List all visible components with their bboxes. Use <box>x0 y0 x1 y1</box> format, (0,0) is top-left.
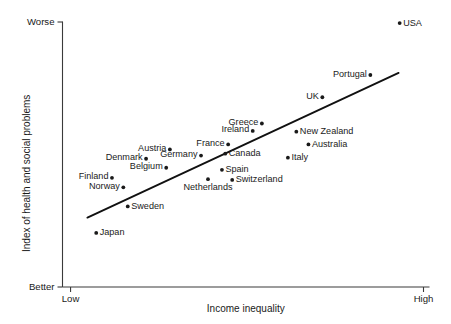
point-label: Norway <box>89 182 120 191</box>
data-point <box>144 157 148 161</box>
scatter-chart: USAPortugalUKGreeceIrelandNew ZealandFra… <box>0 0 451 324</box>
point-label: New Zealand <box>300 128 354 137</box>
data-point <box>164 166 168 170</box>
data-point <box>320 95 324 99</box>
point-label: Japan <box>100 229 125 238</box>
point-label: Ireland <box>221 126 249 135</box>
point-label: Australia <box>312 140 347 149</box>
point-label: USA <box>403 19 422 28</box>
point-label: Belgium <box>130 163 163 172</box>
data-point <box>223 152 227 156</box>
data-point <box>121 185 125 189</box>
data-point <box>206 177 210 181</box>
y-axis-top-tick-label: Worse <box>27 17 55 27</box>
data-point <box>94 231 98 235</box>
point-label: Netherlands <box>183 183 232 192</box>
point-label: Italy <box>291 154 308 163</box>
point-label: Canada <box>229 150 261 159</box>
best-fit-line <box>87 73 398 218</box>
point-label: Switzerland <box>236 176 283 185</box>
y-axis-title: Index of health and social problems <box>22 95 32 252</box>
data-point <box>368 73 372 77</box>
plot-canvas <box>0 0 451 324</box>
y-axis-bottom-tick-label: Better <box>29 282 55 292</box>
data-point <box>294 130 298 134</box>
data-point <box>126 205 130 209</box>
data-point <box>307 143 311 147</box>
trend-line <box>87 73 398 218</box>
data-point <box>110 176 114 180</box>
data-point <box>226 143 230 147</box>
point-label: UK <box>306 92 319 101</box>
data-point <box>260 122 264 126</box>
point-label: France <box>196 139 224 148</box>
x-axis-right-tick-label: High <box>414 294 434 304</box>
point-label: Spain <box>225 166 248 175</box>
data-point <box>251 129 255 133</box>
data-point <box>286 156 290 160</box>
x-axis-left-tick-label: Low <box>62 294 80 304</box>
point-label: Germany <box>160 151 197 160</box>
data-point <box>220 168 224 172</box>
point-label: Portugal <box>333 70 367 79</box>
data-point <box>398 21 402 25</box>
point-label: Sweden <box>131 202 164 211</box>
data-point <box>199 154 203 158</box>
x-axis-title: Income inequality <box>207 304 285 314</box>
